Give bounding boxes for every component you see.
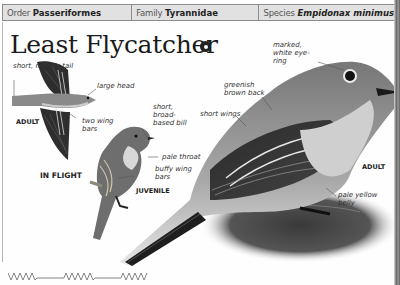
adult-caption: ADULT: [362, 163, 385, 171]
bird-illustrations: [0, 0, 400, 285]
annotation-pale-throat: pale throat: [162, 153, 201, 161]
page-binding-edge: [394, 0, 400, 285]
annotation-short-narrow-tail: short, narrow tail: [13, 62, 73, 70]
in-flight-bird-illustration: [12, 61, 96, 160]
juvenile-bird-illustration: [90, 127, 155, 240]
annotation-pale-yellow-belly: pale yellow belly: [338, 191, 384, 207]
in-flight-caption: IN FLIGHT: [40, 171, 82, 180]
annotation-short-broad-based-bill: short, broad-based bill: [153, 103, 193, 127]
juvenile-caption: JUVENILE: [136, 187, 170, 195]
annotation-large-head: large head: [97, 82, 135, 90]
annotation-greenish-brown-back: greenish brown back: [224, 81, 268, 97]
annotation-short-wings: short wings: [200, 110, 240, 118]
annotation-two-wing-bars: two wing bars: [82, 117, 118, 133]
in-flight-adult-tag: ADULT: [16, 118, 39, 126]
annotation-buffy-wing-bars: buffy wing bars: [155, 165, 199, 181]
song-pattern-icon: [8, 270, 148, 282]
field-guide-page: Order Passeriformes Family Tyrannidae Sp…: [0, 0, 400, 285]
annotation-white-eye-ring: marked, white eye-ring: [273, 41, 313, 65]
